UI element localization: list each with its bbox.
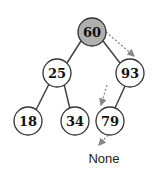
tree-nodes: 60 25 93 18 34 79: [14, 18, 144, 135]
edge-60-25: [67, 41, 81, 63]
edge-25-18: [36, 84, 49, 110]
node-79: 79: [96, 107, 124, 135]
svg-text:18: 18: [19, 114, 37, 129]
search-arrow-93-79: [101, 85, 107, 105]
search-arrow-79-none: [99, 135, 108, 145]
node-18: 18: [14, 107, 42, 135]
svg-text:25: 25: [48, 66, 66, 81]
svg-text:79: 79: [101, 114, 119, 129]
svg-text:34: 34: [66, 114, 84, 129]
node-34: 34: [61, 107, 89, 135]
search-arrow-60-93: [106, 32, 134, 56]
bst-diagram: 60 25 93 18 34 79 None: [0, 0, 153, 175]
svg-text:60: 60: [83, 25, 101, 40]
none-terminal-label: None: [88, 151, 119, 166]
edge-93-79: [115, 86, 125, 108]
node-25: 25: [43, 59, 71, 87]
svg-text:93: 93: [121, 66, 139, 81]
edge-25-34: [64, 84, 70, 109]
edge-60-93: [103, 41, 120, 63]
node-60: 60: [78, 18, 106, 46]
node-93: 93: [116, 59, 144, 87]
